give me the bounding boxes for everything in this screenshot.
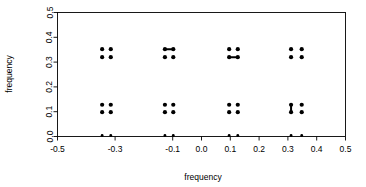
data-point [164, 134, 167, 137]
x-tick-label: 0.1 [224, 144, 236, 154]
x-axis-tick-labels: -0.5-0.3-0.10.00.10.20.30.40.5 [50, 144, 352, 154]
x-tick-label: 0.4 [311, 144, 323, 154]
data-point [227, 47, 231, 51]
chart-canvas: -0.5-0.3-0.10.00.10.20.30.40.5 0.00.10.2… [0, 0, 366, 187]
y-tick-label: 0.2 [45, 81, 55, 93]
data-points [100, 47, 304, 137]
data-point [100, 47, 104, 51]
x-tick-label: -0.1 [165, 144, 180, 154]
data-point [171, 103, 175, 107]
data-point [171, 47, 175, 51]
data-point [109, 110, 113, 114]
y-tick-label: 0.4 [45, 31, 55, 43]
data-point [300, 47, 304, 51]
data-point [236, 134, 239, 137]
x-tick-label: -0.5 [50, 144, 65, 154]
data-point [171, 55, 175, 59]
y-tick-label: 0.0 [45, 130, 55, 142]
y-tick-label: 0.5 [45, 6, 55, 18]
x-axis-title: frequency [184, 172, 222, 182]
data-point [227, 55, 231, 59]
y-tick-label: 0.3 [45, 56, 55, 68]
x-tick-label: 0.3 [282, 144, 294, 154]
data-point [172, 134, 175, 137]
data-point [236, 55, 240, 59]
data-point [109, 103, 113, 107]
data-point [300, 134, 303, 137]
y-tick-label: 0.1 [45, 106, 55, 118]
data-point [163, 47, 167, 51]
y-axis-tick-labels: 0.00.10.20.30.40.5 [45, 6, 55, 142]
y-axis-title: frequency [4, 55, 14, 93]
data-point [227, 110, 231, 114]
data-point [289, 103, 293, 107]
data-point [101, 134, 104, 137]
data-point [163, 55, 167, 59]
plot-border [58, 13, 346, 137]
data-point [300, 55, 304, 59]
data-point [109, 55, 113, 59]
data-point [236, 103, 240, 107]
scatter-plot-figure: -0.5-0.3-0.10.00.10.20.30.40.5 0.00.10.2… [0, 0, 366, 187]
data-point [236, 47, 240, 51]
data-point [171, 110, 175, 114]
data-point [100, 103, 104, 107]
data-point [227, 103, 231, 107]
data-point [300, 103, 304, 107]
data-point [289, 110, 293, 114]
plot-frame [58, 13, 346, 137]
data-point [289, 47, 293, 51]
x-tick-label: 0.2 [253, 144, 265, 154]
x-axis-ticks [58, 137, 346, 141]
data-point [228, 134, 231, 137]
data-point [289, 55, 293, 59]
data-point [300, 110, 304, 114]
x-tick-label: 0.0 [196, 144, 208, 154]
x-tick-label: -0.3 [108, 144, 123, 154]
data-point [163, 110, 167, 114]
x-tick-label: 0.5 [340, 144, 352, 154]
data-point [290, 134, 293, 137]
data-point [100, 110, 104, 114]
data-point [100, 55, 104, 59]
data-point [163, 103, 167, 107]
data-point [236, 110, 240, 114]
data-point [109, 134, 112, 137]
data-point [109, 47, 113, 51]
